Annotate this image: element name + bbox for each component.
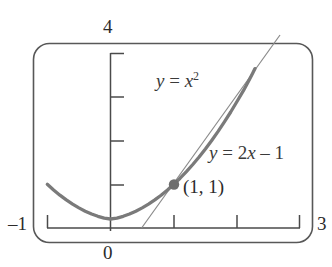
tangent-constant: 1 (275, 142, 285, 163)
tangent-line-figure: 4 –1 3 0 y = x2 y = 2x – 1 (1, 1) (0, 0, 332, 267)
parabola-base: x (185, 70, 193, 91)
parabola-equation-label: y = x2 (156, 71, 199, 90)
tangency-point-marker (169, 179, 179, 189)
tangent-minus-sign: – (260, 142, 270, 163)
x-axis-max-label: 3 (317, 214, 327, 233)
x-axis-min-label: –1 (8, 214, 27, 233)
tangent-equals: = (222, 142, 233, 163)
parabola-exponent: 2 (193, 69, 199, 83)
tangency-point-label: (1, 1) (183, 177, 224, 196)
parabola-equals: = (169, 70, 180, 91)
figure-canvas (0, 0, 332, 267)
tangent-coefficient: 2 (238, 142, 248, 163)
y-axis-max-label: 4 (103, 17, 113, 36)
tangent-variable: x (247, 142, 255, 163)
origin-label: 0 (103, 243, 113, 262)
tangent-equation-label: y = 2x – 1 (209, 143, 284, 162)
